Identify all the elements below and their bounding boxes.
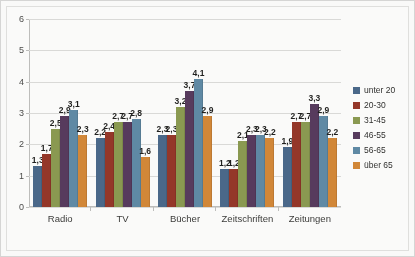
bar[interactable] [176,107,185,207]
bar-groups: 1,31,72,52,93,12,32,22,42,72,72,81,62,32… [29,19,341,207]
bar-set: 2,32,33,23,74,12,9 [154,19,216,207]
bar-value-label: 2,2 [264,127,276,137]
bar[interactable] [247,135,256,207]
bar[interactable] [328,138,337,207]
legend-label: unter 20 [364,85,395,95]
plot-area: 0123456 1,31,72,52,93,12,32,22,42,72,72,… [29,19,341,207]
bar[interactable] [33,166,42,207]
chart-legend: unter 2020-3031-4546-5556-65über 65 [353,85,395,170]
bar[interactable] [194,79,203,207]
bar[interactable] [283,147,292,207]
x-tick-mark [153,207,154,211]
bar-column: 2,9 [319,19,328,207]
bar-set: 1,21,22,12,32,32,2 [216,19,278,207]
legend-swatch-icon [353,147,360,154]
bar[interactable] [167,135,176,207]
bar-column: 2,1 [238,19,247,207]
legend-item[interactable]: 46-55 [353,130,395,140]
bar-column: 2,7 [301,19,310,207]
bar[interactable] [114,122,123,207]
legend-item[interactable]: 31-45 [353,115,395,125]
bar[interactable] [78,135,87,207]
bar-group: 2,32,33,23,74,12,9 [154,19,216,207]
bar-column: 2,8 [132,19,141,207]
bar-column: 2,3 [78,19,87,207]
bar-group: 1,31,72,52,93,12,3 [29,19,91,207]
bar-column: 2,3 [167,19,176,207]
chart-container: 0123456 1,31,72,52,93,12,32,22,42,72,72,… [0,0,415,257]
x-tick-mark [90,207,91,211]
legend-swatch-icon [353,102,360,109]
bar-group: 1,21,22,12,32,32,2 [216,19,278,207]
bar[interactable] [185,91,194,207]
bar-set: 1,31,72,52,93,12,3 [29,19,91,207]
legend-item[interactable]: unter 20 [353,85,395,95]
bar-set: 1,92,72,73,32,92,2 [279,19,341,207]
y-tick-label-3: 3 [19,108,24,118]
legend-swatch-icon [353,117,360,124]
bar[interactable] [301,122,310,207]
bar[interactable] [105,132,114,207]
bar-column: 1,2 [229,19,238,207]
y-tick-label-2: 2 [19,139,24,149]
bar-column: 1,7 [42,19,51,207]
bar[interactable] [51,129,60,207]
bar[interactable] [229,169,238,207]
x-category-label: TV [91,213,153,224]
y-tick-label-0: 0 [19,202,24,212]
legend-item[interactable]: 56-65 [353,145,395,155]
legend-label: 31-45 [364,115,386,125]
bar-column: 2,3 [256,19,265,207]
x-category-label: Radio [29,213,91,224]
bar[interactable] [60,116,69,207]
bar[interactable] [265,138,274,207]
y-tick-label-4: 4 [19,77,24,87]
y-tick-label-5: 5 [19,45,24,55]
bar-column: 3,7 [185,19,194,207]
bar[interactable] [132,119,141,207]
legend-item[interactable]: über 65 [353,160,395,170]
bar[interactable] [256,135,265,207]
bar[interactable] [238,141,247,207]
x-category-label: Zeitungen [279,213,341,224]
bar[interactable] [310,104,319,207]
gridline-0 [29,207,341,208]
bar-column: 1,3 [33,19,42,207]
legend-swatch-icon [353,162,360,169]
bar[interactable] [141,157,150,207]
bar-group: 2,22,42,72,72,81,6 [91,19,153,207]
y-tick-mark-0 [26,207,29,208]
y-tick-label-6: 6 [19,14,24,24]
y-tick-label-1: 1 [19,171,24,181]
bar-column: 2,9 [203,19,212,207]
bar-group: 1,92,72,73,32,92,2 [279,19,341,207]
legend-label: 56-65 [364,145,386,155]
x-category-label: Bücher [154,213,216,224]
bar-column: 2,2 [96,19,105,207]
bar-column: 2,2 [265,19,274,207]
bar-value-label: 2,9 [202,105,214,115]
legend-label: über 65 [364,160,393,170]
x-axis-category-labels: RadioTVBücherZeitschriftenZeitungen [29,213,341,224]
bar[interactable] [123,122,132,207]
x-tick-mark [278,207,279,211]
bar[interactable] [203,116,212,207]
bar-column: 3,2 [176,19,185,207]
legend-swatch-icon [353,132,360,139]
legend-item[interactable]: 20-30 [353,100,395,110]
bar-column: 1,2 [220,19,229,207]
bar-column: 3,1 [69,19,78,207]
x-tick-mark [215,207,216,211]
bar-value-label: 2,2 [326,127,338,137]
bar[interactable] [158,135,167,207]
legend-swatch-icon [353,87,360,94]
bar-column: 1,6 [141,19,150,207]
bar[interactable] [42,154,51,207]
bar[interactable] [220,169,229,207]
x-category-label: Zeitschriften [216,213,278,224]
bar-set: 2,22,42,72,72,81,6 [91,19,153,207]
bar[interactable] [96,138,105,207]
legend-label: 20-30 [364,100,386,110]
bar[interactable] [292,122,301,207]
bar-column: 2,9 [60,19,69,207]
